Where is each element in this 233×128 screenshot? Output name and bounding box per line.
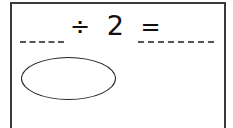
quotient-blank[interactable] (138, 41, 214, 43)
answer-ellipse[interactable] (21, 57, 116, 100)
divisor: 2 (107, 11, 125, 41)
equals-sign: = (140, 12, 161, 42)
dividend-blank[interactable] (20, 41, 64, 43)
divide-sign: ÷ (70, 12, 91, 42)
equation: ÷ 2 = (70, 11, 168, 42)
